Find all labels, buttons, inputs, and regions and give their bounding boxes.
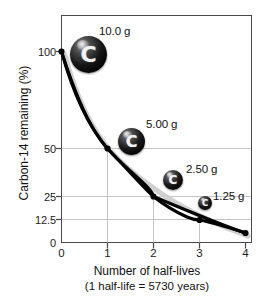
carbon-sphere-10g: C [70,36,107,73]
mass-label-10g: 10.0 g [99,25,130,37]
x-tick-label-1: 1 [104,247,110,259]
mass-label-1-25g: 1.25 g [213,190,244,202]
x-tick-label-0: 0 [58,247,64,259]
carbon-sphere-5g: C [118,128,145,155]
carbon-14-decay-chart: 100 50 25 12.5 0 0 1 2 3 4 Carbon-14 rem… [0,0,272,306]
x-axis-title: Number of half-lives (1 half-life = 5730… [42,264,252,294]
sphere-specular-highlight [167,172,174,177]
x-tick-label-3: 3 [196,247,202,259]
mass-label-5g: 5.00 g [146,118,177,130]
x-tick-label-4: 4 [242,247,248,259]
y-axis-title: Carbon-14 remaining (%) [17,43,31,223]
carbon-sphere-2-5g: C [163,170,183,190]
x-tick-label-2: 2 [150,247,156,259]
mass-label-2-5g: 2.50 g [186,163,217,175]
x-axis-title-main: Number of half-lives [94,264,201,278]
x-axis-tick-labels: 0 1 2 3 4 [0,247,272,263]
x-axis-title-sub: (1 half-life = 5730 years) [42,279,252,294]
carbon-sphere-1-25g: C [198,196,212,210]
